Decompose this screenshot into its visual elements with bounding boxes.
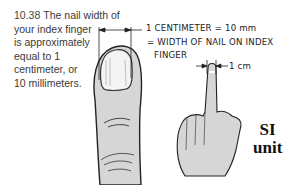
badge-line: unit	[253, 139, 282, 157]
badge-line: SI	[253, 121, 282, 139]
hand-drawing	[177, 64, 241, 177]
annotation-width-of-nail: = WIDTH OF NAIL ON INDEX	[147, 37, 273, 47]
si-unit-badge: SI unit	[253, 121, 282, 157]
large-finger-drawing	[94, 46, 142, 185]
annotation-finger: FINGER	[154, 50, 187, 60]
annotation-centimeter: 1 CENTIMETER = 10 mm	[146, 23, 256, 33]
annotation-one-cm: 1 cm	[229, 61, 251, 71]
